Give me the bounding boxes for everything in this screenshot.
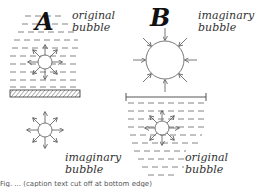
- panel-b-original-label-line2: bubble: [185, 164, 223, 175]
- panel-a-imaginary-bubble: [27, 112, 63, 148]
- rigid-wall: [10, 90, 80, 97]
- panel-a-imaginary-label-line1: imaginary: [65, 152, 121, 163]
- panel-b-label: B: [150, 6, 170, 30]
- panel-a-label: A: [35, 10, 54, 34]
- panel-a-imaginary-label-line2: bubble: [65, 164, 103, 175]
- panel-a-original-bubble: [28, 45, 62, 79]
- panel-b-imaginary-label-line1: imaginary: [198, 10, 254, 21]
- panel-b-original-label-line1: original: [185, 152, 228, 163]
- panel-a-original-label-line2: bubble: [72, 22, 110, 33]
- free-surface-line: [126, 93, 206, 101]
- panel-b-imaginary-bubble: [133, 28, 197, 92]
- panel-b-original-bubble: [145, 111, 179, 145]
- panel-a-original-label-line1: original: [72, 10, 115, 21]
- panel-b-imaginary-label-line2: bubble: [198, 22, 236, 33]
- figure-caption: Fig. ... (caption text cut off at bottom…: [0, 180, 256, 187]
